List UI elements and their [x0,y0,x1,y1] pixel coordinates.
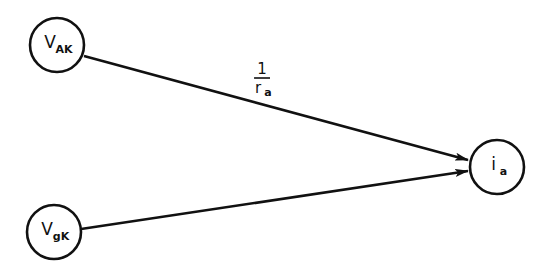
gain-denominator: r [255,79,262,97]
node-label: V [41,219,53,239]
node-vak: V AK [30,18,84,72]
signal-flow-diagram: 1 r a V AK V gK i a [0,0,545,273]
arrow-line [84,56,468,160]
gain-denominator-subscript: a [264,86,271,99]
edge-vgk-to-ia [81,171,468,229]
edge-vak-to-ia [84,56,468,160]
node-ia: i a [470,140,524,194]
node-subscript: a [500,165,507,178]
node-subscript: AK [55,43,73,56]
node-circle [470,140,524,194]
node-vgk: V gK [27,205,81,259]
edge-gain-label: 1 r a [254,60,272,99]
gain-numerator: 1 [257,60,267,78]
arrow-line [81,171,468,229]
node-label: i [491,154,496,174]
node-subscript: gK [53,230,70,243]
node-label: V [44,32,56,52]
